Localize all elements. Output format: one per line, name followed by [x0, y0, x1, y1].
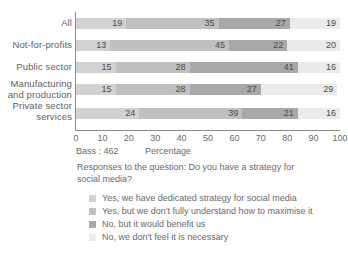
legend-swatch-icon [89, 221, 96, 228]
x-tick-label: 30 [150, 133, 160, 144]
bar-segment: 20 [287, 40, 340, 51]
x-axis-line [75, 130, 340, 131]
bar-segment: 15 [76, 62, 116, 73]
legend-label: No, we don't feel it is necessary [102, 232, 228, 243]
bar-row: 13452220 [76, 40, 340, 51]
legend-item[interactable]: Yes, we have dedicated strategy for soci… [89, 192, 347, 205]
bar-segment: 24 [76, 108, 139, 119]
bar-segment: 27 [190, 84, 261, 95]
legend-label: No, but it would benefit us [102, 219, 206, 230]
chart-caption: Responses to the question: Do you have a… [77, 162, 342, 185]
legend-item[interactable]: Yes, but we don't fully understand how t… [89, 205, 347, 218]
x-tick-label: 10 [97, 133, 107, 144]
bar-segment: 22 [229, 40, 287, 51]
x-axis-ticks: 0102030405060708090100 [76, 133, 340, 145]
bar-segment: 35 [126, 18, 218, 29]
x-axis-title: Percentage [145, 146, 191, 157]
legend-swatch-icon [89, 195, 96, 202]
category-label-line: Public sector [0, 62, 72, 73]
category-label: All [0, 18, 72, 29]
caption-line-1: Responses to the question: Do you have a… [77, 162, 342, 174]
category-label-line: Private sector [0, 101, 72, 112]
x-tick-label: 40 [177, 133, 187, 144]
x-tick-label: 90 [309, 133, 319, 144]
bar-segment: 15 [76, 84, 116, 95]
x-tick-label: 20 [124, 133, 134, 144]
bar-row: 15284116 [76, 62, 340, 73]
bar-row: 19352719 [76, 18, 340, 29]
category-label-line: Not-for-profits [0, 40, 72, 51]
bar-segment: 41 [190, 62, 298, 73]
category-label: Public sector [0, 62, 72, 73]
bar-segment: 27 [219, 18, 290, 29]
bar-segment: 19 [290, 18, 340, 29]
bar-segment: 16 [298, 62, 340, 73]
x-tick-label: 70 [256, 133, 266, 144]
plot-area: 1935271913452220152841161528272924392116 [76, 12, 340, 130]
legend-item[interactable]: No, we don't feel it is necessary [89, 231, 347, 244]
bar-segment: 19 [76, 18, 126, 29]
x-tick-label: 50 [203, 133, 213, 144]
bar-segment: 39 [139, 108, 242, 119]
bar-segment: 28 [116, 84, 190, 95]
bar-row: 15282729 [76, 84, 340, 95]
legend-swatch-icon [89, 208, 96, 215]
caption-line-2: social media? [77, 174, 342, 186]
chart-legend: Yes, we have dedicated strategy for soci… [89, 192, 347, 244]
x-tick-label: 80 [282, 133, 292, 144]
legend-item[interactable]: No, but it would benefit us [89, 218, 347, 231]
x-tick-label: 100 [332, 133, 347, 144]
category-label-line: Manufacturing [0, 79, 72, 90]
category-label: Private sectorservices [0, 101, 72, 122]
bar-segment: 29 [261, 84, 338, 95]
legend-label: Yes, we have dedicated strategy for soci… [102, 193, 297, 204]
category-label: Not-for-profits [0, 40, 72, 51]
bar-segment: 13 [76, 40, 110, 51]
category-label: Manufacturingand production [0, 79, 72, 100]
bar-segment: 21 [242, 108, 297, 119]
category-label-line: services [0, 112, 72, 123]
bar-segment: 16 [298, 108, 340, 119]
bar-segment: 28 [116, 62, 190, 73]
x-tick-label: 0 [73, 133, 78, 144]
category-label-line: All [0, 18, 72, 29]
legend-swatch-icon [89, 234, 96, 241]
category-label-line: and production [0, 90, 72, 101]
legend-label: Yes, but we don't fully understand how t… [102, 206, 313, 217]
bar-segment: 45 [110, 40, 229, 51]
base-note: Bass : 462 [76, 146, 119, 157]
x-tick-label: 60 [229, 133, 239, 144]
bar-row: 24392116 [76, 108, 340, 119]
